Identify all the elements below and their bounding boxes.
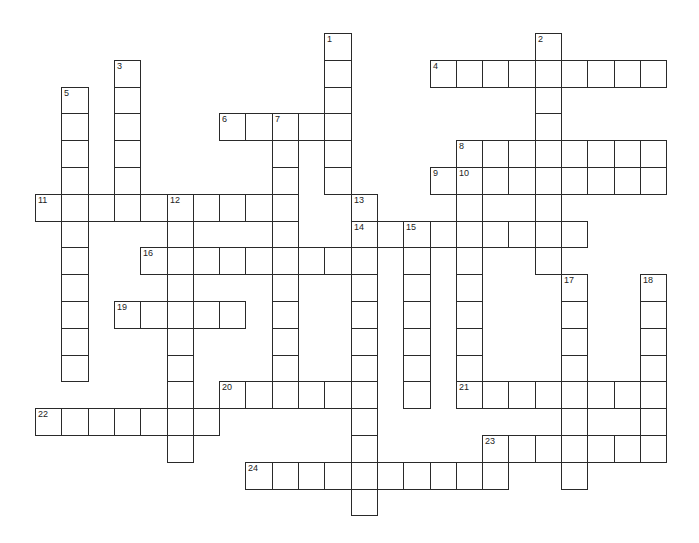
crossword-cell[interactable] (324, 167, 352, 195)
crossword-cell[interactable] (640, 301, 667, 329)
crossword-cell[interactable] (403, 462, 431, 490)
crossword-cell[interactable] (614, 167, 641, 195)
crossword-cell[interactable] (193, 194, 220, 222)
crossword-cell[interactable] (61, 247, 89, 275)
crossword-cell[interactable] (272, 247, 299, 275)
crossword-cell[interactable] (614, 60, 641, 88)
crossword-cell[interactable]: 15 (403, 221, 431, 248)
crossword-cell[interactable] (430, 221, 457, 248)
crossword-cell[interactable] (245, 247, 273, 275)
crossword-cell[interactable] (324, 87, 352, 114)
crossword-cell[interactable] (403, 355, 431, 382)
crossword-cell[interactable] (245, 113, 273, 141)
crossword-cell[interactable] (561, 408, 588, 436)
crossword-cell[interactable] (167, 274, 194, 302)
crossword-cell[interactable] (640, 355, 667, 382)
crossword-cell[interactable] (614, 140, 641, 168)
crossword-cell[interactable] (561, 167, 588, 195)
crossword-cell[interactable] (298, 247, 325, 275)
crossword-cell[interactable] (193, 301, 220, 329)
crossword-cell[interactable] (403, 328, 431, 356)
crossword-cell[interactable] (482, 221, 509, 248)
crossword-cell[interactable] (456, 247, 483, 275)
crossword-cell[interactable]: 24 (245, 462, 273, 490)
crossword-cell[interactable] (167, 381, 194, 409)
crossword-cell[interactable] (535, 435, 562, 463)
crossword-cell[interactable] (535, 247, 562, 275)
crossword-cell[interactable]: 11 (35, 194, 62, 222)
crossword-cell[interactable] (508, 167, 536, 195)
crossword-cell[interactable]: 4 (430, 60, 457, 88)
crossword-cell[interactable] (561, 60, 588, 88)
crossword-cell[interactable] (482, 140, 509, 168)
crossword-cell[interactable] (535, 194, 562, 222)
crossword-cell[interactable] (587, 140, 615, 168)
crossword-cell[interactable] (140, 408, 168, 436)
crossword-cell[interactable] (561, 221, 588, 248)
crossword-cell[interactable]: 12 (167, 194, 194, 222)
crossword-cell[interactable] (614, 435, 641, 463)
crossword-cell[interactable] (167, 247, 194, 275)
crossword-cell[interactable] (272, 140, 299, 168)
crossword-cell[interactable] (61, 274, 89, 302)
crossword-cell[interactable] (167, 355, 194, 382)
crossword-cell[interactable] (324, 462, 352, 490)
crossword-cell[interactable] (535, 167, 562, 195)
crossword-cell[interactable] (508, 140, 536, 168)
crossword-cell[interactable] (140, 301, 168, 329)
crossword-cell[interactable] (430, 462, 457, 490)
crossword-cell[interactable] (88, 194, 115, 222)
crossword-cell[interactable] (114, 167, 141, 195)
crossword-cell[interactable] (535, 221, 562, 248)
crossword-cell[interactable] (535, 60, 562, 88)
crossword-cell[interactable] (193, 408, 220, 436)
crossword-cell[interactable] (272, 274, 299, 302)
crossword-cell[interactable] (298, 113, 325, 141)
crossword-cell[interactable] (167, 221, 194, 248)
crossword-cell[interactable]: 18 (640, 274, 667, 302)
crossword-cell[interactable] (61, 194, 89, 222)
crossword-cell[interactable]: 14 (351, 221, 378, 248)
crossword-cell[interactable] (324, 113, 352, 141)
crossword-cell[interactable] (587, 435, 615, 463)
crossword-cell[interactable] (614, 381, 641, 409)
crossword-cell[interactable] (403, 247, 431, 275)
crossword-cell[interactable] (324, 381, 352, 409)
crossword-cell[interactable] (561, 140, 588, 168)
crossword-cell[interactable] (535, 140, 562, 168)
crossword-cell[interactable] (298, 381, 325, 409)
crossword-cell[interactable]: 7 (272, 113, 299, 141)
crossword-cell[interactable] (167, 301, 194, 329)
crossword-cell[interactable] (61, 408, 89, 436)
crossword-cell[interactable] (167, 408, 194, 436)
crossword-cell[interactable] (114, 408, 141, 436)
crossword-cell[interactable]: 1 (324, 33, 352, 61)
crossword-cell[interactable] (351, 247, 378, 275)
crossword-cell[interactable]: 17 (561, 274, 588, 302)
crossword-cell[interactable]: 3 (114, 60, 141, 88)
crossword-cell[interactable] (167, 328, 194, 356)
crossword-cell[interactable] (351, 274, 378, 302)
crossword-cell[interactable] (403, 301, 431, 329)
crossword-cell[interactable] (351, 381, 378, 409)
crossword-cell[interactable] (219, 301, 246, 329)
crossword-cell[interactable] (351, 355, 378, 382)
crossword-cell[interactable] (114, 87, 141, 114)
crossword-cell[interactable] (640, 60, 667, 88)
crossword-cell[interactable] (403, 381, 431, 409)
crossword-cell[interactable] (377, 462, 404, 490)
crossword-cell[interactable]: 19 (114, 301, 141, 329)
crossword-cell[interactable] (640, 408, 667, 436)
crossword-cell[interactable] (272, 328, 299, 356)
crossword-cell[interactable] (61, 328, 89, 356)
crossword-cell[interactable] (456, 60, 483, 88)
crossword-cell[interactable] (640, 167, 667, 195)
crossword-cell[interactable] (561, 301, 588, 329)
crossword-cell[interactable] (456, 355, 483, 382)
crossword-cell[interactable] (482, 60, 509, 88)
crossword-cell[interactable] (140, 194, 168, 222)
crossword-cell[interactable] (272, 301, 299, 329)
crossword-cell[interactable]: 8 (456, 140, 483, 168)
crossword-cell[interactable] (535, 381, 562, 409)
crossword-cell[interactable] (272, 462, 299, 490)
